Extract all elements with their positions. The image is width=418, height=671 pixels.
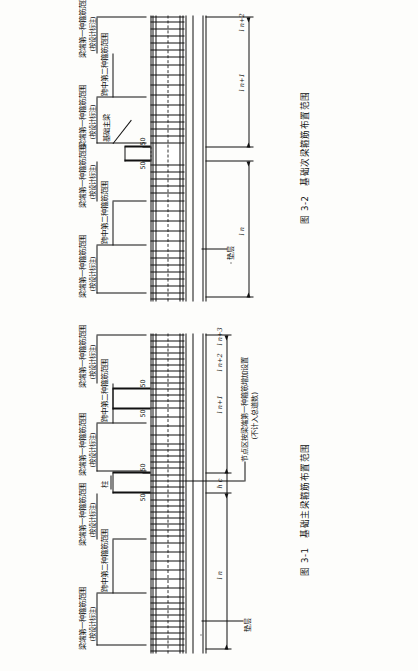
- break-right-a: [150, 334, 184, 335]
- break-left-b: [150, 298, 184, 299]
- dim-label-ln2-b: l n+2: [237, 13, 245, 31]
- range-line-mid-2-b: [112, 53, 113, 97]
- beam-end-range-label-3-a: 梁端第一种箍筋范围: [78, 412, 86, 475]
- cushion-label-b: 垫层: [226, 245, 234, 259]
- beam-end-range-label-2-a: 梁端第一种箍筋范围: [78, 482, 86, 545]
- column-1-top-a: [112, 472, 113, 493]
- beam-end-range-label-1-a: 梁端第一种箍筋范围: [78, 586, 86, 649]
- figure-a-caption-number: 图 3-1: [300, 547, 308, 575]
- beam-end-note-3-b: (按设计标注): [88, 104, 96, 139]
- beam-end-note-2-b: (按设计标注): [88, 164, 96, 199]
- drawing-page: l n h c l n+1 节点区按梁端第一种箍筋增加设置 (不计入总道数) 垫…: [0, 0, 418, 671]
- joint-zone-leader-a: [244, 461, 245, 481]
- dim-label-ln2-a: l n+2: [215, 353, 223, 371]
- midspan-range-label-b: 跨中第二种箍筋范围: [100, 180, 108, 243]
- beam-end-range-label-3-b: 梁端第一种箍筋范围: [78, 84, 86, 147]
- figure-3-2: 基础主梁 50 50 梁端第一种箍筋范围 (按设计标注) 跨中第二种箍筋范围 梁…: [0, 0, 418, 319]
- rotated-drawing-canvas: l n h c l n+1 节点区按梁端第一种箍筋增加设置 (不计入总道数) 垫…: [0, 0, 418, 671]
- break-right-b: [150, 16, 184, 17]
- beam-end-note-4-a: (按设计标注): [88, 344, 96, 379]
- beam-end-range-label-1-b: 梁端第一种箍筋范围: [78, 234, 86, 297]
- cushion-leader-b: [230, 262, 231, 263]
- dim-label-ln1-a: l n+1: [215, 395, 223, 413]
- dim-label-ln-b: l n: [237, 227, 245, 235]
- midspan-range-label-2-a: 跨中第二种箍筋范围: [100, 358, 108, 421]
- beam-end-note-3-a: (按设计标注): [88, 432, 96, 467]
- figure-a-caption-text: 基础主梁箍筋布置范围: [300, 443, 308, 537]
- beam-end-note-1-b: (按设计标注): [88, 256, 96, 291]
- cushion-leader-a: [200, 634, 201, 635]
- cover-50-label-3-a: 50: [138, 409, 146, 417]
- midspan-range-label-1-a: 跨中第二种箍筋范围: [100, 528, 108, 591]
- range-line-mid-b: [112, 201, 113, 245]
- dim-label-ln1-b: l n+1: [237, 73, 245, 91]
- dim-label-hc-a: h c: [215, 478, 223, 488]
- midspan-range-label-2-b: 跨中第二种箍筋范围: [100, 32, 108, 95]
- dim-line-ln-b: [248, 161, 249, 297]
- column-label-a: 柱: [100, 480, 108, 487]
- dim-label-ln-a: l n: [215, 571, 223, 579]
- range-line-mid-2-a: [112, 383, 113, 423]
- cushion-band-a: [192, 333, 203, 653]
- dim-line-ln1-b: [248, 17, 249, 147]
- break-left-a: [150, 650, 184, 651]
- figure-b-caption-number: 图 3-2: [300, 195, 308, 223]
- cover-50-label-1-b: 50: [138, 161, 146, 169]
- dim-line-span-ln1-a: [226, 335, 227, 473]
- cover-50-label-2-b: 50: [138, 137, 146, 145]
- rebar-bottom-a: [182, 333, 183, 653]
- figure-b-caption-text: 基础次梁箍筋布置范围: [300, 91, 308, 185]
- cushion-label-a: 垫层: [243, 617, 251, 631]
- main-beam-top-b: [124, 146, 125, 161]
- main-beam-hidden-line-b: [150, 146, 151, 161]
- joint-zone-note-line2-a: (不计入总道数): [250, 391, 258, 439]
- rebar-top-a: [152, 333, 153, 653]
- dim-line-hc-a: [226, 473, 227, 493]
- beam-end-range-label-4-b: 梁端第一种箍筋范围: [78, 0, 86, 57]
- cushion-base-b: [205, 15, 206, 301]
- main-beam-label-b: 基础主梁: [102, 113, 110, 141]
- figure-3-1: l n h c l n+1 节点区按梁端第一种箍筋增加设置 (不计入总道数) 垫…: [0, 321, 418, 671]
- beam-end-note-1-a: (按设计标注): [88, 606, 96, 641]
- main-beam-leader-b: [112, 119, 131, 143]
- cushion-band-b: [192, 15, 203, 301]
- joint-zone-note-line1-a: 节点区按梁端第一种箍筋增加设置: [240, 356, 248, 461]
- beam-end-note-2-a: (按设计标注): [88, 502, 96, 537]
- dim-label-ln3-a: l n+3: [215, 327, 223, 345]
- range-line-mid-1-a: [112, 539, 113, 593]
- beam-end-range-label-4-a: 梁端第一种箍筋范围: [78, 324, 86, 387]
- beam-end-range-label-2-b: 梁端第一种箍筋范围: [78, 144, 86, 207]
- cover-50-label-1-a: 50: [138, 493, 146, 501]
- beam-end-note-4-b: (按设计标注): [88, 16, 96, 51]
- cover-50-label-4-a: 50: [138, 379, 146, 387]
- dim-line-span-ln-a: [226, 493, 227, 649]
- column-label-underline-a: [110, 475, 111, 489]
